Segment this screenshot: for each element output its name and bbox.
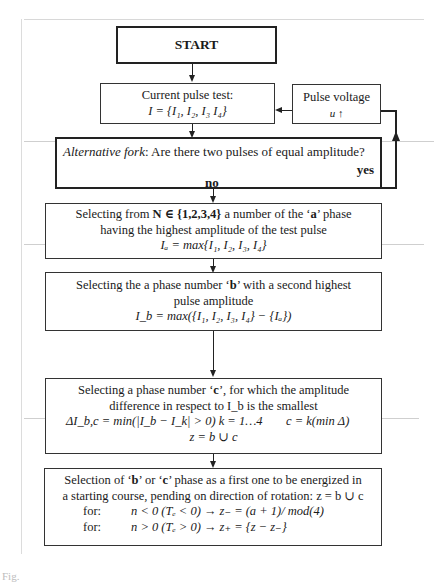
select-a-text: a number of the ‘ xyxy=(221,207,310,221)
arrow-head-down-icon xyxy=(210,370,216,377)
set-n-formula: N ∈ {1,2,3,4} xyxy=(153,207,222,221)
arrow-head-down-icon xyxy=(210,196,216,203)
current-pulse-test-formula: I = {I₁, I₂, I₃ I₄} xyxy=(101,104,274,120)
arrow-head-up-icon xyxy=(392,131,400,141)
select-b-description: pulse amplitude xyxy=(46,294,381,310)
fork-yes-label: yes xyxy=(357,162,374,178)
select-b-text: ’ with a second highest xyxy=(237,278,351,292)
alternative-fork-box: Alternative fork: Are there two pulses o… xyxy=(55,137,382,189)
c-formula: c = k(min Δ) xyxy=(286,414,349,430)
current-pulse-test-title: Current pulse test: xyxy=(101,88,274,104)
rule-label: for: xyxy=(83,520,101,536)
select-a-text: ’ phase xyxy=(317,207,352,221)
selection-text: ’ or ‘ xyxy=(139,473,163,487)
feedback-line-top xyxy=(381,110,396,112)
z-union-formula: z = b ∪ c xyxy=(46,430,381,446)
select-c-box: Selecting a phase number ‘c’, for which … xyxy=(45,378,382,454)
rule-expression: n < 0 (Tₑ < 0) → z₋ = (a + 1)/ mod(4) xyxy=(131,504,324,520)
select-c-text: Selecting a phase number ‘ xyxy=(78,383,213,397)
selection-text: ’ phase as a first one to be energized i… xyxy=(168,473,362,487)
fork-prefix: Alternative fork xyxy=(63,144,145,159)
start-box: START xyxy=(116,26,277,64)
fork-question: : Are there two pulses of equal amplitud… xyxy=(145,144,365,159)
select-b-formula: I_b = max({I₁, I₂, I₃, I₄} − {Iₐ}) xyxy=(46,309,381,325)
select-a-description: having the highest amplitude of the test… xyxy=(46,223,381,239)
selection-box: Selection of ‘b’ or ‘c’ phase as a first… xyxy=(44,468,382,546)
start-label: START xyxy=(175,37,219,52)
phase-b-label: b xyxy=(132,473,139,487)
select-a-text: Selecting from xyxy=(75,207,152,221)
page-frame-left xyxy=(21,19,22,554)
rule-expression: n > 0 (Tₑ > 0) → z₊ = {z − z₋} xyxy=(131,520,287,536)
select-b-text: Selecting the a phase number ‘ xyxy=(76,278,230,292)
selection-rule-row: for: n > 0 (Tₑ > 0) → z₊ = {z − z₋} xyxy=(45,520,381,536)
feedback-line-vertical xyxy=(395,110,397,188)
figure-caption: Fig. xyxy=(2,570,19,582)
arrow-head-down-icon xyxy=(210,461,216,468)
select-a-box: Selecting from N ∈ {1,2,3,4} a number of… xyxy=(45,203,382,259)
page-frame-top xyxy=(24,19,424,20)
phase-b-label: b xyxy=(230,278,237,292)
selection-text: Selection of ‘ xyxy=(64,473,131,487)
arrow-head-down-icon xyxy=(189,75,195,82)
select-b-box: Selecting the a phase number ‘b’ with a … xyxy=(45,272,382,331)
current-pulse-test-box: Current pulse test: I = {I₁, I₂, I₃ I₄} xyxy=(100,83,275,124)
select-c-description: difference in respect to I_b is the smal… xyxy=(46,399,381,415)
arrow-voltage-to-test xyxy=(281,110,292,111)
pulse-voltage-box: Pulse voltage u ↑ xyxy=(292,84,381,124)
fork-no-label: no xyxy=(205,175,219,191)
delta-formula: ΔI_b,c = min(|I_b − I_k| > 0) k = 1…4 xyxy=(66,414,263,428)
selection-description: a starting course, pending on direction … xyxy=(45,489,381,505)
select-a-formula: Iₐ = max{I₁, I₂, I₃, I₄} xyxy=(46,238,381,254)
feedback-line-bottom xyxy=(380,187,397,189)
pulse-voltage-symbol: u ↑ xyxy=(293,106,380,122)
selection-rule-row: for: n < 0 (Tₑ < 0) → z₋ = (a + 1)/ mod(… xyxy=(45,504,381,520)
arrow-b-to-c xyxy=(213,331,214,371)
pulse-voltage-title: Pulse voltage xyxy=(293,90,380,106)
rule-label: for: xyxy=(83,504,101,520)
arrow-head-left-icon xyxy=(275,107,282,113)
select-c-text: ’, for which the amplitude xyxy=(219,383,349,397)
